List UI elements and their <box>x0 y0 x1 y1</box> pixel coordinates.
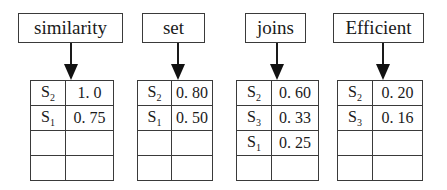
posting-row: S30. 33 <box>237 106 319 131</box>
term-label: similarity <box>34 17 107 39</box>
posting-list-efficient: S20. 20 S30. 16 <box>337 80 423 181</box>
term-label: set <box>163 17 184 39</box>
posting-list-similarity: S21. 0 S10. 75 <box>30 80 114 181</box>
posting-row: S10. 75 <box>31 106 114 131</box>
posting-row: S10. 25 <box>237 131 319 156</box>
posting-row: S10. 50 <box>138 106 213 131</box>
posting-row <box>338 131 423 156</box>
arrow-head-icon <box>64 64 78 80</box>
arrow-head-icon <box>171 64 185 80</box>
posting-row: S20. 60 <box>237 81 319 106</box>
posting-row: S21. 0 <box>31 81 114 106</box>
term-label: Efficient <box>345 17 411 39</box>
term-box-joins: joins <box>245 13 306 43</box>
term-box-set: set <box>142 13 205 43</box>
posting-list-joins: S20. 60 S30. 33 S10. 25 <box>236 80 319 181</box>
arrow-head-icon <box>270 64 284 80</box>
term-label: joins <box>257 17 294 39</box>
term-box-similarity: similarity <box>18 13 123 43</box>
term-box-efficient: Efficient <box>333 13 424 43</box>
posting-list-set: S20. 80 S10. 50 <box>137 80 213 181</box>
posting-row: S30. 16 <box>338 106 423 131</box>
posting-row <box>138 131 213 156</box>
posting-row <box>31 131 114 156</box>
posting-row: S20. 20 <box>338 81 423 106</box>
arrow-head-icon <box>376 64 390 80</box>
posting-row <box>31 156 114 181</box>
posting-row <box>138 156 213 181</box>
posting-row <box>338 156 423 181</box>
posting-row: S20. 80 <box>138 81 213 106</box>
posting-row <box>237 156 319 181</box>
